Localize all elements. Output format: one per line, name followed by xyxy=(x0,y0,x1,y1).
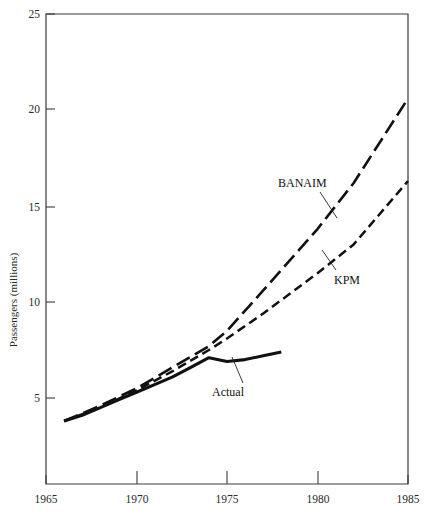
xtick-label-1970: 1970 xyxy=(126,493,149,505)
xtick-label-1975: 1975 xyxy=(216,493,239,505)
chart-figure: 25 20 15 10 5 1965 1970 1975 1980 1985 P… xyxy=(0,0,436,518)
ytick-label-5: 5 xyxy=(34,392,40,404)
xtick-label-1965: 1965 xyxy=(35,493,58,505)
series-line-banaim xyxy=(64,98,408,421)
y-axis-title: Passengers (millions) xyxy=(7,252,20,347)
series-label-kpm: KPM xyxy=(334,273,360,287)
series-label-banaim: BANAIM xyxy=(278,176,327,190)
ytick-label-10: 10 xyxy=(29,296,41,308)
ytick-label-20: 20 xyxy=(29,103,41,115)
xtick-label-1985: 1985 xyxy=(397,493,420,505)
series-line-actual xyxy=(64,352,281,421)
ytick-label-15: 15 xyxy=(29,201,41,213)
axis-frame xyxy=(46,14,408,484)
xtick-label-1980: 1980 xyxy=(307,493,330,505)
line-chart-svg: 25 20 15 10 5 1965 1970 1975 1980 1985 P… xyxy=(0,0,436,518)
ytick-label-25: 25 xyxy=(29,8,41,20)
series-label-actual: Actual xyxy=(212,385,245,399)
